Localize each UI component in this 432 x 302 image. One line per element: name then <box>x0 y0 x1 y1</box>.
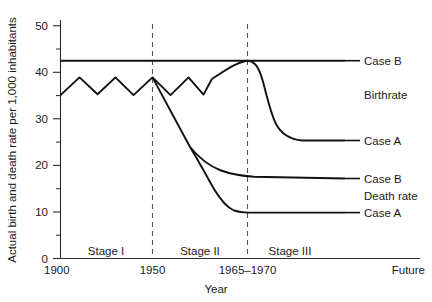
label-birthrate-group: Birthrate <box>364 89 407 101</box>
series-deathrate-case-b <box>190 147 345 179</box>
stage-label-2: Stage II <box>180 245 220 257</box>
label-birthrate-case-a: Case A <box>364 135 401 147</box>
stage-labels-group: Stage I Stage II Stage III <box>88 245 312 257</box>
y-tick-label-40: 40 <box>35 66 48 78</box>
series-deathrate-case-a <box>190 147 345 213</box>
label-deathrate-case-a: Case A <box>364 207 401 219</box>
y-tick-labels-group: 0 10 20 30 40 50 <box>35 20 48 265</box>
x-tick-label-1950: 1950 <box>140 264 166 276</box>
chart-canvas: 0 10 20 30 40 50 Actual birth and death … <box>0 0 432 302</box>
demographic-transition-chart: 0 10 20 30 40 50 Actual birth and death … <box>0 0 432 302</box>
label-deathrate-group: Death rate <box>364 190 418 202</box>
series-labels-group: Case B Birthrate Case A Case B Death rat… <box>364 55 418 219</box>
series-birthrate-oscillation <box>61 77 213 95</box>
label-birthrate-case-b: Case B <box>364 55 402 67</box>
x-axis-title: Year <box>204 283 227 295</box>
y-tick-label-30: 30 <box>35 113 48 125</box>
x-tick-label-1900: 1900 <box>44 264 70 276</box>
x-tick-label-future: Future <box>392 264 425 276</box>
label-deathrate-case-b: Case B <box>364 173 402 185</box>
x-tick-label-1965-1970: 1965–1970 <box>219 264 277 276</box>
series-group <box>61 61 346 213</box>
y-tick-label-50: 50 <box>35 20 48 32</box>
y-tick-label-0: 0 <box>42 253 48 265</box>
y-ticks-group <box>53 26 61 259</box>
stage-label-1: Stage I <box>88 245 124 257</box>
stage-dividers-group <box>153 24 248 259</box>
x-tick-labels-group: 1900 1950 1965–1970 Future <box>44 264 425 276</box>
y-tick-label-20: 20 <box>35 159 48 171</box>
y-tick-label-10: 10 <box>35 206 48 218</box>
label-leaders-group <box>345 61 360 213</box>
y-axis-title: Actual birth and death rate per 1,000 in… <box>6 17 18 263</box>
series-birthrate-rise-to-plateau <box>212 61 248 79</box>
stage-label-3: Stage III <box>269 245 312 257</box>
series-birthrate-case-a <box>248 61 346 141</box>
series-deathrate-trunk <box>153 77 191 147</box>
